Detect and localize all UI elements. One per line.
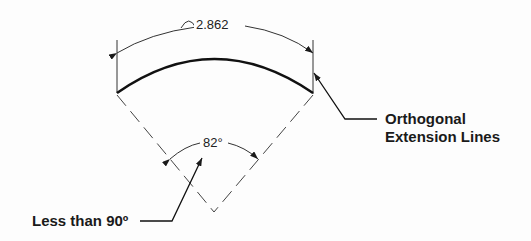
arc-length-value: 2.862 bbox=[194, 17, 231, 32]
right-radial-line bbox=[214, 95, 313, 212]
arc-feature bbox=[117, 59, 313, 93]
orthogonal-label-line1: Orthogonal bbox=[385, 110, 500, 128]
left-radial-line bbox=[117, 95, 214, 212]
angle-note-leader bbox=[140, 158, 202, 221]
angle-note-label: Less than 90º bbox=[32, 212, 128, 230]
angle-arc-left bbox=[170, 143, 200, 159]
angle-value: 82° bbox=[201, 135, 225, 150]
angle-arc-right bbox=[228, 143, 258, 159]
orthogonal-label: Orthogonal Extension Lines bbox=[385, 110, 500, 146]
orthogonal-label-line2: Extension Lines bbox=[385, 128, 500, 146]
dimension-arc-left bbox=[117, 27, 196, 53]
dimension-arc-right bbox=[245, 26, 313, 53]
arc-dimension-diagram: 2.862 82° Orthogonal Extension Lines Les… bbox=[0, 0, 531, 241]
orthogonal-leader bbox=[314, 73, 377, 119]
